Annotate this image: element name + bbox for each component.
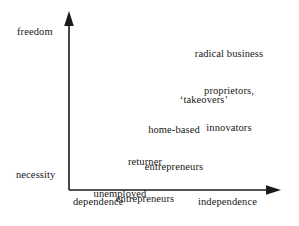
item-line-2: proprietors, (168, 85, 290, 97)
item-line-2: entrepreneurs (118, 161, 230, 173)
x-axis-arrowhead (266, 185, 281, 195)
x-axis-high-label: independence (198, 196, 257, 208)
item-radical-business-proprietors: radical business proprietors, innovators (168, 24, 290, 158)
y-axis-high-label: freedom (17, 26, 53, 38)
y-axis-arrowhead (64, 11, 74, 26)
item-line-3: innovators (168, 122, 290, 134)
y-axis-low-label: necessity (16, 169, 55, 181)
concept-diagram: freedom necessity dependence independenc… (0, 0, 299, 226)
item-line-1: radical business (168, 48, 290, 60)
